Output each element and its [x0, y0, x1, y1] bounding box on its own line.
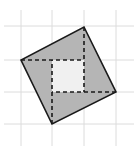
- tilted-square-diagram: [0, 0, 138, 156]
- inner-square: [52, 60, 84, 92]
